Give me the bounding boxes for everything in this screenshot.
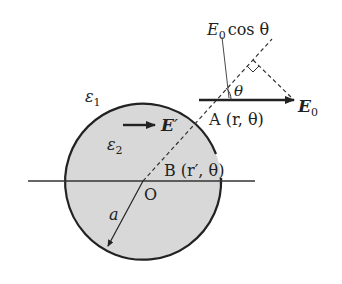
projection-dashed-line <box>253 60 294 100</box>
e-prime-label: E′ <box>160 115 178 135</box>
point-b-label: B (r′, θ) <box>164 161 224 180</box>
e0cos-label: E0cos θ <box>206 20 269 42</box>
e0cos-leader-line <box>222 37 229 98</box>
e0-label: E0 <box>297 96 318 119</box>
sphere-dielectric-diagram: ε1 ε2 E′ E0cos θ θ E0 A (r, θ) B (r′, θ)… <box>0 0 342 284</box>
eps1-label: ε1 <box>85 87 101 109</box>
theta-label: θ <box>234 82 243 100</box>
point-a-label: A (r, θ) <box>208 110 264 129</box>
origin-label: O <box>144 185 157 204</box>
radius-label: a <box>109 205 119 224</box>
right-angle-mark <box>247 66 259 72</box>
